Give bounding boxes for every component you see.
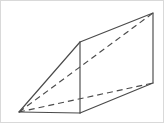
triangular-prism-drawing [1,1,164,123]
geometry-figure-canvas [0,0,164,123]
